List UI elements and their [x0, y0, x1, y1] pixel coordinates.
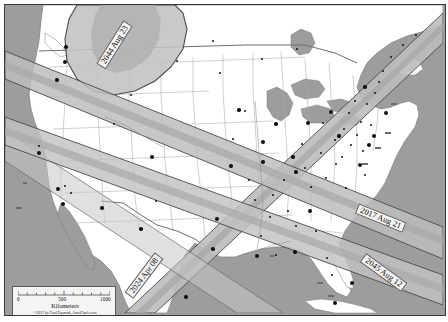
city-label-washington-dc — [362, 163, 368, 165]
city-dot-milwaukee — [274, 122, 277, 125]
city-dot-vancouver — [64, 45, 67, 48]
city-dot-montreal — [363, 85, 366, 88]
city-label-boston — [391, 103, 397, 105]
city-dot-indianapolis — [291, 155, 294, 158]
city-label-philadelphia — [375, 147, 381, 149]
city-label-new-york — [385, 132, 391, 134]
city-dot-new-orleans — [293, 250, 296, 253]
city-dot-austin — [211, 247, 214, 250]
city-label-los-angeles — [23, 182, 27, 184]
city-dot-minneapolis — [237, 108, 240, 111]
eclipse-map: 2044 Aug 232024 Apr 082017 Aug 212045 Au… — [0, 0, 448, 322]
city-dot-cleveland — [337, 134, 340, 137]
scale-bar: 0 500 1000 Kilometers ©2013 by Fred Espe… — [12, 286, 116, 316]
city-label-miami — [317, 282, 323, 284]
city-dot-cincinnati — [294, 170, 297, 173]
city-dot-monterrey — [184, 295, 187, 298]
city-label-new-orleans — [270, 255, 274, 257]
city-dot-st-louis — [261, 160, 264, 163]
city-dot-el-paso — [139, 227, 142, 230]
map-frame: 2044 Aug 232024 Apr 082017 Aug 212045 Au… — [4, 4, 446, 316]
city-label-san-diego — [16, 207, 22, 209]
city-dot-phoenix — [100, 206, 103, 209]
city-dot-kansas-city — [229, 164, 232, 167]
city-dot-portland — [55, 78, 58, 81]
scale-unit-label: Kilometers — [13, 302, 117, 309]
map-credit: ©2013 by Fred Espenak, AstroPixels.com — [13, 310, 117, 315]
city-label-havana — [328, 295, 334, 297]
